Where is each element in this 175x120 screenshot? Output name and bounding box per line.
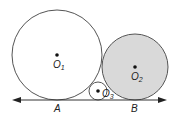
label-point-a: A	[53, 103, 61, 114]
center-o3	[96, 89, 100, 93]
tangent-circles-diagram: O1 O2 O3 A B	[0, 0, 175, 120]
arrow-right-icon	[158, 97, 167, 103]
arrow-left-icon	[12, 97, 21, 103]
label-point-b: B	[131, 103, 138, 114]
center-o2	[133, 65, 137, 69]
center-o1	[55, 53, 59, 57]
